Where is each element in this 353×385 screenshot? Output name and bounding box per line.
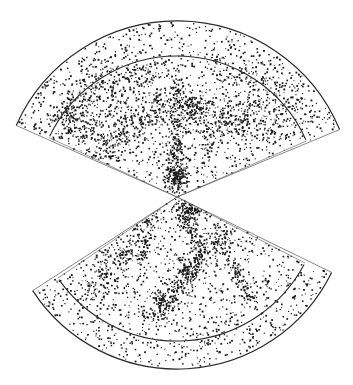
south-wedge — [33, 197, 332, 369]
wedge-plot — [0, 0, 353, 385]
redshift-survey-diagram — [0, 0, 353, 385]
north-wedge — [16, 21, 339, 197]
